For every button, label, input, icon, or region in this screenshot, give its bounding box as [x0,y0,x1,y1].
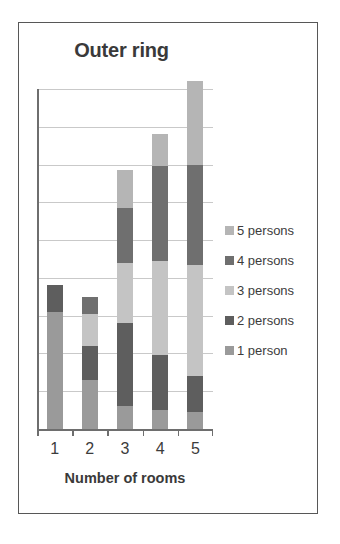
bar-group-4[interactable] [152,134,168,429]
legend-item[interactable]: 1 person [225,335,317,365]
bar-segment[interactable] [117,406,133,429]
bar-segment[interactable] [187,265,203,376]
bar-segment[interactable] [82,297,98,314]
x-axis-tick-labels: 12345 [37,440,213,464]
x-axis-tick-label-3: 3 [108,440,142,458]
legend-label: 5 persons [237,223,294,238]
plot-area [37,89,213,429]
bar-group-1[interactable] [47,285,63,429]
legend-item[interactable]: 3 persons [225,275,317,305]
legend-swatch-icon [225,286,234,295]
chart-legend: 5 persons4 persons3 persons2 persons1 pe… [225,215,317,365]
bar-segment[interactable] [117,208,133,263]
bar-group-5[interactable] [187,81,203,429]
legend-item[interactable]: 4 persons [225,245,317,275]
x-axis-tick-label-2: 2 [73,440,107,458]
bar-group-2[interactable] [82,297,98,429]
x-axis-tick [37,429,39,436]
bars-layer [37,89,213,429]
bar-segment[interactable] [152,355,168,410]
bar-segment[interactable] [117,323,133,406]
x-axis-tick [143,429,145,436]
legend-swatch-icon [225,346,234,355]
legend-item[interactable]: 2 persons [225,305,317,335]
bar-segment[interactable] [47,312,63,429]
legend-label: 1 person [237,343,288,358]
x-axis-tick [212,429,214,436]
x-axis-tick-label-4: 4 [143,440,177,458]
chart-title: Outer ring [19,39,224,62]
x-axis-tick [72,429,74,436]
x-axis-tick [107,429,109,436]
bar-segment[interactable] [187,165,203,265]
bar-group-3[interactable] [117,170,133,429]
bar-segment[interactable] [187,412,203,429]
bar-segment[interactable] [82,380,98,429]
bar-segment[interactable] [152,166,168,260]
bar-segment[interactable] [187,81,203,164]
legend-swatch-icon [225,226,234,235]
legend-label: 2 persons [237,313,294,328]
legend-swatch-icon [225,256,234,265]
legend-label: 4 persons [237,253,294,268]
bar-segment[interactable] [82,314,98,346]
bar-segment[interactable] [47,285,63,311]
legend-label: 3 persons [237,283,294,298]
x-axis-tick [178,429,180,436]
bar-segment[interactable] [152,134,168,166]
chart-frame: Outer ring 12345 Number of rooms 5 perso… [18,22,318,514]
bar-segment[interactable] [82,346,98,380]
x-axis-title: Number of rooms [27,470,223,486]
bar-segment[interactable] [152,410,168,429]
bar-segment[interactable] [187,376,203,412]
x-axis-line [37,429,213,431]
x-axis-tick-label-5: 5 [178,440,212,458]
bar-segment[interactable] [152,261,168,355]
bar-segment[interactable] [117,263,133,323]
bar-segment[interactable] [117,170,133,208]
legend-item[interactable]: 5 persons [225,215,317,245]
legend-swatch-icon [225,316,234,325]
x-axis-tick-label-1: 1 [38,440,72,458]
